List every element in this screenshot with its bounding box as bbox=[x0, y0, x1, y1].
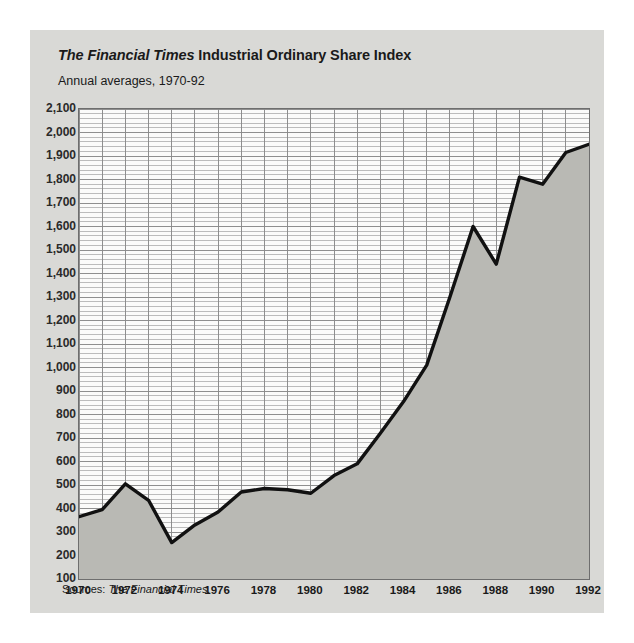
y-axis-tick-label: 1,900 bbox=[30, 148, 76, 162]
x-axis-tick-label: 1982 bbox=[343, 584, 369, 596]
y-axis-tick-label: 1,300 bbox=[30, 289, 76, 303]
x-axis-tick-label: 1984 bbox=[390, 584, 416, 596]
y-axis-tick-label: 200 bbox=[30, 548, 76, 562]
chart-canvas bbox=[79, 109, 589, 579]
x-axis-tick-label: 1990 bbox=[529, 584, 555, 596]
chart-title: The Financial Times Industrial Ordinary … bbox=[58, 47, 411, 63]
y-axis-tick-label: 300 bbox=[30, 524, 76, 538]
x-axis-tick-label: 1980 bbox=[297, 584, 323, 596]
y-axis-tick-label: 1,700 bbox=[30, 195, 76, 209]
y-axis-tick-label: 800 bbox=[30, 407, 76, 421]
y-axis-tick-label: 1,200 bbox=[30, 313, 76, 327]
chart-figure: The Financial Times Industrial Ordinary … bbox=[30, 30, 604, 613]
y-axis-tick-label: 1,500 bbox=[30, 242, 76, 256]
y-axis-tick-label: 2,000 bbox=[30, 125, 76, 139]
y-axis-tick-label: 900 bbox=[30, 383, 76, 397]
source-note: Sources: The Financial Times. bbox=[62, 583, 210, 595]
chart-title-rest: Industrial Ordinary Share Index bbox=[194, 47, 411, 63]
chart-subtitle: Annual averages, 1970-92 bbox=[58, 74, 205, 88]
y-axis-tick-label: 1,000 bbox=[30, 360, 76, 374]
y-axis-tick-label: 600 bbox=[30, 454, 76, 468]
source-value: The Financial Times. bbox=[108, 583, 210, 595]
x-axis-tick-label: 1978 bbox=[251, 584, 277, 596]
y-axis-tick-label: 500 bbox=[30, 477, 76, 491]
chart-title-publication: The Financial Times bbox=[58, 47, 194, 63]
y-axis-tick-label: 2,100 bbox=[30, 101, 76, 115]
x-axis-tick-label: 1992 bbox=[575, 584, 601, 596]
x-axis-tick-label: 1986 bbox=[436, 584, 462, 596]
y-axis-tick-label: 1,100 bbox=[30, 336, 76, 350]
y-axis-tick-label: 1,800 bbox=[30, 172, 76, 186]
y-axis-tick-label: 700 bbox=[30, 430, 76, 444]
x-axis-tick-label: 1988 bbox=[482, 584, 508, 596]
y-axis-tick-label: 400 bbox=[30, 501, 76, 515]
y-axis-tick-label: 1,600 bbox=[30, 219, 76, 233]
source-label: Sources: bbox=[62, 583, 105, 595]
plot-area bbox=[78, 108, 590, 580]
y-axis-tick-label: 1,400 bbox=[30, 266, 76, 280]
